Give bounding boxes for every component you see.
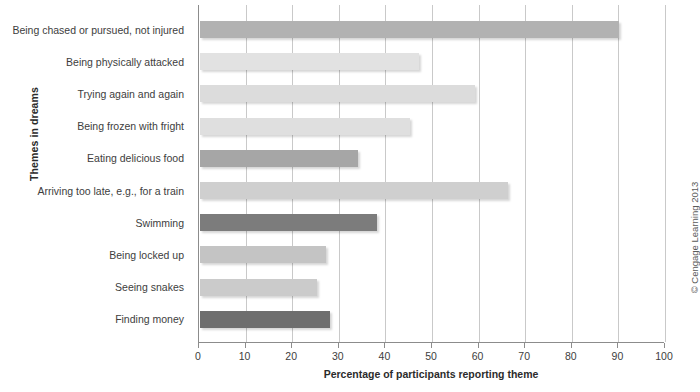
x-tick-mark [291, 343, 292, 348]
bar [200, 214, 377, 231]
bar [200, 85, 475, 102]
x-tick-mark [384, 343, 385, 348]
x-tick-label: 100 [644, 350, 684, 362]
x-tick-label: 20 [271, 350, 311, 362]
x-tick-label: 10 [225, 350, 265, 362]
x-tick-label: 40 [364, 350, 404, 362]
category-label: Being locked up [0, 249, 184, 261]
x-tick-mark [478, 343, 479, 348]
copyright-notice: © Cengage Learning 2013 [689, 158, 700, 318]
x-tick-mark [198, 343, 199, 348]
bar [200, 311, 330, 328]
bar [200, 53, 419, 70]
category-label: Being frozen with fright [0, 120, 184, 132]
category-label: Being chased or pursued, not injured [0, 24, 184, 36]
plot-area [198, 5, 664, 343]
x-tick-label: 90 [597, 350, 637, 362]
x-tick-label: 50 [411, 350, 451, 362]
category-label: Finding money [0, 313, 184, 325]
category-label: Swimming [0, 217, 184, 229]
x-tick-label: 0 [178, 350, 218, 362]
category-label: Being physically attacked [0, 56, 184, 68]
x-tick-mark [664, 343, 665, 348]
x-tick-label: 30 [318, 350, 358, 362]
bar [200, 279, 317, 296]
category-label-list: Being chased or pursued, not injuredBein… [0, 21, 190, 333]
bar [200, 118, 410, 135]
x-tick-label: 80 [551, 350, 591, 362]
bar [200, 246, 326, 263]
bar [200, 21, 619, 38]
gridline [665, 5, 666, 342]
category-label: Trying again and again [0, 88, 184, 100]
category-label: Arriving too late, e.g., for a train [0, 185, 184, 197]
x-tick-mark [431, 343, 432, 348]
x-tick-mark [571, 343, 572, 348]
x-tick-mark [617, 343, 618, 348]
x-tick-label: 60 [458, 350, 498, 362]
category-label: Seeing snakes [0, 281, 184, 293]
x-tick-label: 70 [504, 350, 544, 362]
x-tick-mark [245, 343, 246, 348]
x-axis-title: Percentage of participants reporting the… [198, 368, 664, 380]
bars-layer [199, 5, 664, 342]
bar [200, 150, 358, 167]
x-tick-mark [338, 343, 339, 348]
category-label: Eating delicious food [0, 152, 184, 164]
bar [200, 182, 508, 199]
x-tick-mark [524, 343, 525, 348]
